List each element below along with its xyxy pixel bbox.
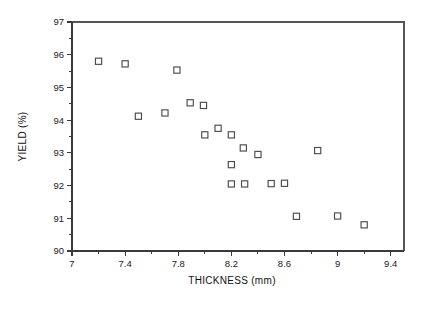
data-point-marker	[215, 125, 221, 131]
plot-axes	[72, 22, 404, 251]
data-point-marker	[202, 132, 208, 138]
data-point-marker	[281, 180, 287, 186]
data-point-marker	[315, 147, 321, 153]
data-point-marker	[228, 162, 234, 168]
plot-canvas: 909192939495969777.47.88.28.699.4THICKNE…	[0, 0, 435, 310]
x-ticklabel-9.4: 9.4	[384, 258, 397, 269]
x-axis-title: THICKNESS (mm)	[188, 275, 276, 286]
y-ticklabel-91: 91	[53, 213, 64, 224]
y-axis-title: YIELD (%)	[17, 112, 28, 162]
plot-frame-border	[72, 22, 404, 251]
data-point-marker	[268, 181, 274, 187]
x-ticklabel-8.2: 8.2	[225, 258, 238, 269]
data-point-marker	[122, 61, 128, 67]
data-point-marker	[228, 132, 234, 138]
data-point-marker	[187, 100, 193, 106]
data-point-marker	[174, 67, 180, 73]
x-ticklabel-9: 9	[335, 258, 340, 269]
data-point-marker	[335, 213, 341, 219]
data-point-marker	[95, 58, 101, 64]
scatter-chart-figure: 909192939495969777.47.88.28.699.4THICKNE…	[0, 0, 435, 310]
x-ticklabel-7.4: 7.4	[119, 258, 132, 269]
y-ticklabel-90: 90	[53, 245, 64, 256]
data-point-marker	[255, 151, 261, 157]
x-ticklabel-8.6: 8.6	[278, 258, 291, 269]
data-point-marker	[200, 102, 206, 108]
y-ticklabel-94: 94	[53, 115, 64, 126]
y-ticklabel-95: 95	[53, 82, 64, 93]
x-ticklabel-7: 7	[69, 258, 74, 269]
data-point-marker	[293, 213, 299, 219]
data-point-marker	[162, 110, 168, 116]
data-point-marker	[240, 145, 246, 151]
y-ticklabel-92: 92	[53, 180, 64, 191]
y-ticklabel-96: 96	[53, 49, 64, 60]
x-ticklabel-7.8: 7.8	[172, 258, 185, 269]
data-point-marker	[228, 181, 234, 187]
data-point-marker	[242, 181, 248, 187]
y-ticklabel-97: 97	[53, 16, 64, 27]
data-point-marker	[135, 113, 141, 119]
data-point-marker	[361, 222, 367, 228]
y-ticklabel-93: 93	[53, 147, 64, 158]
